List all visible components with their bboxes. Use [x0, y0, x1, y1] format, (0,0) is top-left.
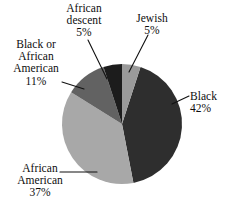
pie-label-black-value: 42%	[190, 102, 242, 114]
pie-slices	[62, 64, 182, 184]
pie-chart-figure: African descent 5% Jewish 5% Black or Af…	[0, 0, 243, 217]
pie-label-african-american-value: 37%	[2, 186, 78, 198]
pie-label-black-or-african-american-line2: African	[2, 50, 70, 62]
pie-label-african-american-line2: American	[2, 174, 78, 186]
pie-label-jewish-value: 5%	[124, 24, 180, 36]
pie-label-black-or-african-american: Black or African American 11%	[2, 38, 70, 87]
pie-label-jewish-line1: Jewish	[124, 12, 180, 24]
pie-label-african-descent: African descent 5%	[52, 2, 116, 39]
pie-label-african-descent-line2: descent	[52, 14, 116, 26]
pie-label-black-line1: Black	[190, 90, 242, 102]
pie-label-african-american-line1: African	[2, 162, 78, 174]
pie-label-african-american: African American 37%	[2, 162, 78, 199]
pie-label-black-or-african-american-line1: Black or	[2, 38, 70, 50]
pie-label-black: Black 42%	[190, 90, 242, 114]
pie-label-jewish: Jewish 5%	[124, 12, 180, 36]
pie-label-african-descent-value: 5%	[52, 26, 116, 38]
pie-label-african-descent-line1: African	[52, 2, 116, 14]
pie-label-black-or-african-american-line3: American	[2, 62, 70, 74]
pie-label-black-or-african-american-value: 11%	[2, 75, 70, 87]
